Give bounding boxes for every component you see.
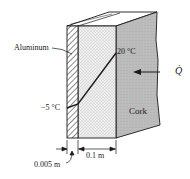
aluminum-thickness-label: 0.005 m bbox=[34, 161, 60, 169]
cork-label: Cork bbox=[129, 107, 147, 116]
insulation-layer bbox=[78, 26, 116, 138]
heat-flow-label: Q̇ bbox=[175, 66, 182, 76]
cork-layer bbox=[116, 12, 160, 138]
inner-temperature-label: −5 °C bbox=[41, 104, 60, 112]
aluminum-label: Aluminum bbox=[14, 44, 49, 52]
aluminum-layer bbox=[67, 26, 78, 138]
insulation-thickness-label: 0.1 m bbox=[86, 152, 104, 160]
outer-temperature-label: 20 °C bbox=[117, 48, 136, 56]
